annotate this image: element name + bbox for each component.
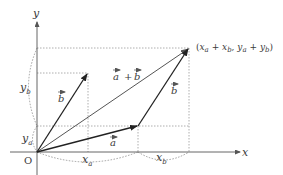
label-y-b: yb bbox=[19, 81, 31, 96]
vector-b-translated-arrow bbox=[138, 49, 188, 126]
vector-a-label-text: a bbox=[110, 137, 116, 148]
vector-sum-label: a + b bbox=[113, 70, 141, 82]
vector-sum-label-a: a bbox=[113, 71, 119, 82]
origin-label: O bbox=[24, 155, 32, 166]
vector-sum-label-b: b bbox=[134, 71, 140, 82]
brace-y-b bbox=[29, 48, 38, 126]
y-axis-label: y bbox=[32, 7, 40, 20]
ep-plus2: + bbox=[247, 42, 260, 52]
label-x-b-sub: b bbox=[162, 158, 167, 166]
ep-plus1: + bbox=[209, 42, 222, 52]
label-y-a-sub: a bbox=[28, 139, 32, 147]
vector-b-translated-label-text: b bbox=[171, 85, 177, 96]
brace-y-a bbox=[33, 126, 38, 152]
x-axis-label: x bbox=[242, 146, 249, 159]
vector-a-arrow bbox=[37, 126, 137, 152]
vector-sum-plus: + bbox=[124, 71, 132, 82]
label-y-b-sub: b bbox=[26, 88, 31, 96]
vector-a-label: a bbox=[110, 137, 117, 148]
vector-addition-diagram: y x O a b b a + b yb ya xa xb (xa + xb, … bbox=[0, 0, 283, 175]
ep-close: ) bbox=[269, 42, 273, 52]
vector-b-label: b bbox=[58, 92, 65, 104]
label-x-a: xa bbox=[82, 153, 92, 168]
endpoint-coordinate-label: (xa + xb, ya + yb) bbox=[196, 42, 273, 54]
label-x-a-sub: a bbox=[88, 160, 92, 168]
vector-b-label-text: b bbox=[58, 93, 64, 104]
vector-b-translated-label: b bbox=[171, 84, 178, 96]
label-y-a: ya bbox=[21, 132, 32, 147]
label-x-b: xb bbox=[156, 151, 167, 166]
